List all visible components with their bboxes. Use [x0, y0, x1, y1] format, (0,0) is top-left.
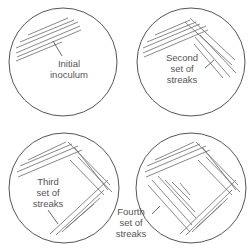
- label-fourth-set: Fourth set of streaks: [110, 206, 152, 239]
- label-line: set of: [160, 63, 204, 74]
- label-initial-inoculum: Initial inoculum: [44, 58, 94, 80]
- initial-streaks: [16, 18, 81, 61]
- label-line: streaks: [160, 74, 204, 85]
- label-line: set of: [28, 187, 68, 198]
- label-line: streaks: [110, 228, 152, 239]
- label-line: inoculum: [44, 69, 94, 80]
- arrow-initial: [53, 41, 62, 56]
- label-third-set: Third set of streaks: [28, 176, 68, 209]
- label-line: Fourth: [110, 206, 152, 217]
- label-second-set: Second set of streaks: [160, 52, 204, 85]
- label-line: set of: [110, 217, 152, 228]
- label-line: streaks: [28, 198, 68, 209]
- label-line: Initial: [44, 58, 94, 69]
- plate-fourth-set: [136, 133, 246, 243]
- label-line: Third: [28, 176, 68, 187]
- label-line: Second: [160, 52, 204, 63]
